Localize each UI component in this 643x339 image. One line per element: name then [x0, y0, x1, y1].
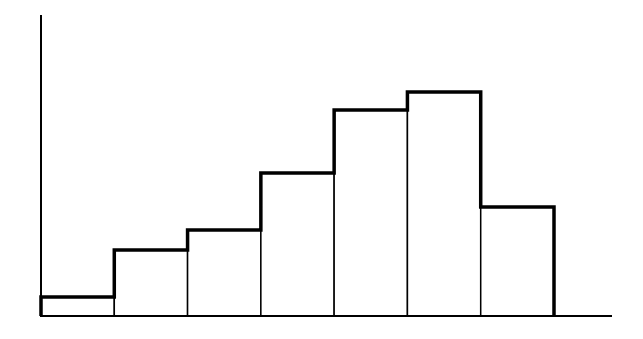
histogram-bar — [188, 230, 261, 316]
histogram-bar — [481, 207, 554, 316]
histogram-bar — [41, 297, 114, 316]
histogram-bar — [334, 110, 407, 316]
histogram-chart — [0, 0, 643, 339]
histogram-bar — [407, 92, 480, 316]
histogram-bar — [261, 173, 334, 316]
histogram-bars — [41, 92, 554, 316]
histogram-bar — [114, 250, 187, 316]
